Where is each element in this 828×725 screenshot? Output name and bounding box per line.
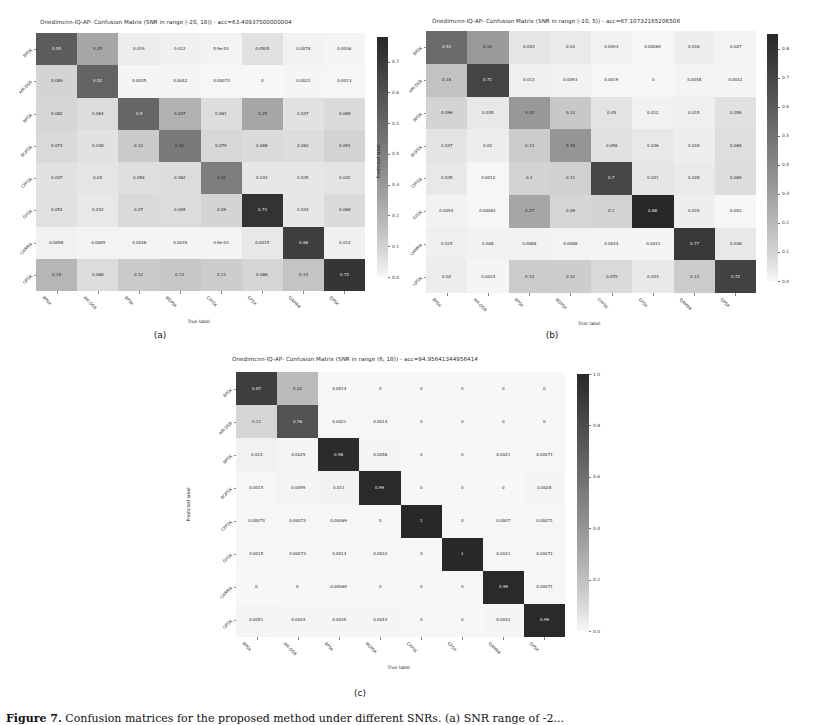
heatmap-cell: 0.00073: [236, 505, 277, 538]
heatmap-cell-value: 0.013: [251, 453, 262, 457]
heatmap-cell: 0.0014: [318, 538, 359, 571]
heatmap-cell-value: 0: [461, 618, 464, 622]
heatmap-cell-value: 0: [420, 585, 423, 589]
heatmap-cell: 0: [401, 471, 442, 504]
confusion-matrix-panel-c: Onedimcnn-IQ-AP- Confusion Matrix (SNR i…: [0, 0, 828, 725]
figure-confusion-matrices: Onedimcnn-IQ-AP- Confusion Matrix (SNR i…: [0, 0, 828, 725]
heatmap-cell: 0.0035: [318, 604, 359, 637]
heatmap-cell-value: 0: [420, 486, 423, 490]
x-tick-label: QAM64: [488, 641, 502, 655]
x-axis-label: True label: [388, 665, 410, 670]
heatmap-cell: 0.0015: [236, 538, 277, 571]
y-tick-label: AM-DSB: [204, 420, 233, 449]
heatmap-cell: 0.0058: [359, 438, 400, 471]
heatmap-cell: 0.0029: [277, 438, 318, 471]
x-tick-mark: [257, 637, 258, 640]
x-tick-mark: [462, 637, 463, 640]
heatmap-cell: 0.11: [236, 405, 277, 438]
x-tick-label: BQPSK: [364, 641, 378, 655]
heatmap-cell-value: 0.11: [252, 420, 261, 424]
colorbar-tick-label: 0.0: [593, 629, 600, 634]
heatmap-cell: 0: [359, 571, 400, 604]
heatmap-cell-value: 0.00073: [289, 519, 306, 523]
heatmap-cell-value: 0.00073: [289, 552, 306, 556]
heatmap-cell-value: 0: [255, 585, 258, 589]
heatmap-cell-value: 0.011: [333, 486, 344, 490]
heatmap-cell: 0.76: [277, 405, 318, 438]
heatmap-cell-value: 0: [461, 486, 464, 490]
heatmap-cell: 0: [442, 604, 483, 637]
x-tick-label: QPSK: [529, 641, 540, 652]
heatmap-cell: 0.0014: [318, 372, 359, 405]
heatmap-cell-value: 0.0051: [250, 618, 264, 622]
colorbar-tick-label: 0.2: [593, 577, 600, 582]
heatmap-cell: 0: [524, 372, 565, 405]
heatmap-cell: 0: [483, 471, 524, 504]
heatmap-cell: 0.0043: [359, 604, 400, 637]
heatmap-cell: 0: [442, 571, 483, 604]
heatmap-cell-value: 0: [296, 585, 299, 589]
heatmap-cell: 0: [236, 571, 277, 604]
heatmap-cell-value: 0: [461, 387, 464, 391]
heatmap-cell: 0.0015: [236, 471, 277, 504]
colorbar-tick-label: 0.4: [593, 526, 600, 531]
y-tick-mark: [234, 389, 237, 390]
x-tick-label: BPSK: [323, 641, 334, 652]
heatmap-cell-value: 0.0029: [291, 453, 305, 457]
heatmap-cell: 0.99: [524, 604, 565, 637]
x-tick-label: GFSK: [447, 641, 458, 652]
heatmap-cell: 0.98: [318, 438, 359, 471]
heatmap-cell: 0.0021: [318, 405, 359, 438]
x-tick-mark: [380, 637, 381, 640]
x-tick-label: 8PSK: [241, 641, 252, 652]
heatmap-cell: 0.00071: [524, 571, 565, 604]
x-tick-label: AM-DSB: [282, 641, 297, 656]
x-tick-label: CPFSK: [406, 641, 419, 654]
heatmap-cell-value: 0: [379, 387, 382, 391]
heatmap-cell-value: 0.0028: [537, 486, 551, 490]
heatmap-cell-value: 0.00071: [536, 552, 553, 556]
heatmap-cell-value: 0.0058: [373, 453, 387, 457]
colorbar-c: [577, 374, 589, 631]
x-tick-mark: [503, 637, 504, 640]
heatmap-cell-value: 0.0042: [496, 618, 510, 622]
heatmap-cell: 0.0021: [483, 538, 524, 571]
heatmap-cell-value: 0.0035: [332, 618, 346, 622]
heatmap-cell-value: 0.76: [293, 420, 302, 424]
heatmap-cell: 0.00071: [524, 538, 565, 571]
heatmap-cell-value: 0: [420, 552, 423, 556]
heatmap-cell-value: 0.99: [540, 618, 549, 622]
heatmap-cell-value: 0.0014: [332, 387, 346, 391]
heatmap-cell-value: 0: [420, 453, 423, 457]
heatmap-cell-value: 0: [420, 387, 423, 391]
y-tick-mark: [234, 422, 237, 423]
colorbar-tick-label: 0.6: [593, 474, 600, 479]
x-tick-mark: [544, 637, 545, 640]
heatmap-cell-value: 0.0007: [496, 519, 510, 523]
y-tick-mark: [234, 455, 237, 456]
y-tick-mark: [234, 620, 237, 621]
heatmap-cell: 0: [401, 405, 442, 438]
heatmap-cell-value: 0.0043: [373, 618, 387, 622]
colorbar-tick-label: 0.8: [593, 423, 600, 428]
heatmap-cell-value: 0.00069: [331, 585, 348, 589]
heatmap-cell: 0: [483, 372, 524, 405]
x-tick-mark: [298, 637, 299, 640]
heatmap-cell-value: 0.0021: [332, 420, 346, 424]
heatmap-cell-value: 0.0015: [250, 552, 264, 556]
heatmap-cell-value: 0.0059: [291, 486, 305, 490]
heatmap-cell: 0.011: [318, 471, 359, 504]
heatmap-c: 0.870.220.0014000000.110.760.00210.00140…: [236, 372, 565, 637]
colorbar-tick-mark: [589, 631, 591, 632]
y-tick-label: BQPSK: [204, 486, 233, 515]
heatmap-cell-value: 0: [543, 387, 546, 391]
heatmap-cell: 0.00069: [318, 505, 359, 538]
colorbar-tick-mark: [589, 580, 591, 581]
heatmap-cell: 0.00071: [524, 505, 565, 538]
heatmap-cell: 0.99: [359, 471, 400, 504]
y-tick-mark: [234, 554, 237, 555]
y-tick-mark: [234, 488, 237, 489]
figure-caption-number: Figure 7.: [6, 712, 62, 725]
heatmap-cell: 0.00073: [277, 505, 318, 538]
heatmap-cell-value: 0.0021: [496, 552, 510, 556]
